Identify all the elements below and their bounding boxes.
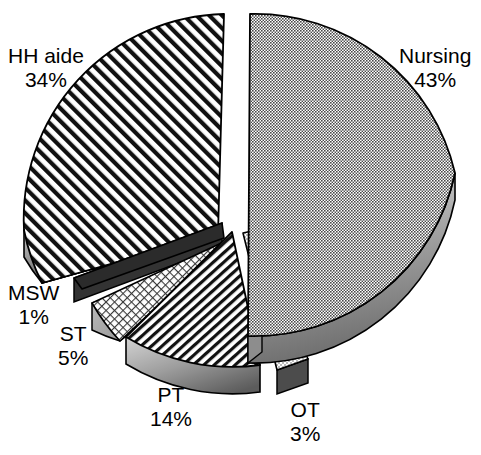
slice-label-msw-name: MSW <box>8 281 59 305</box>
pie-chart-figure: HH aide 34% Nursing 43% MSW 1% ST 5% PT … <box>0 0 481 455</box>
slice-label-ot-value: 3% <box>290 422 320 446</box>
slice-label-hh-aide: HH aide 34% <box>8 44 84 91</box>
slice-label-msw-value: 1% <box>8 305 59 329</box>
slice-label-nursing: Nursing 43% <box>399 44 471 91</box>
slice-label-msw: MSW 1% <box>8 281 59 328</box>
slice-label-st-name: ST <box>58 322 88 346</box>
slice-label-pt-name: PT <box>150 383 192 407</box>
slice-label-nursing-name: Nursing <box>399 44 471 68</box>
slice-label-nursing-value: 43% <box>399 68 471 92</box>
slice-label-st: ST 5% <box>58 322 88 369</box>
slice-label-hh-aide-value: 34% <box>8 68 84 92</box>
slice-label-pt: PT 14% <box>150 383 192 430</box>
slice-label-hh-aide-name: HH aide <box>8 44 84 68</box>
slice-label-ot-name: OT <box>290 398 320 422</box>
slice-label-st-value: 5% <box>58 346 88 370</box>
slice-label-pt-value: 14% <box>150 407 192 431</box>
slice-label-ot: OT 3% <box>290 398 320 445</box>
